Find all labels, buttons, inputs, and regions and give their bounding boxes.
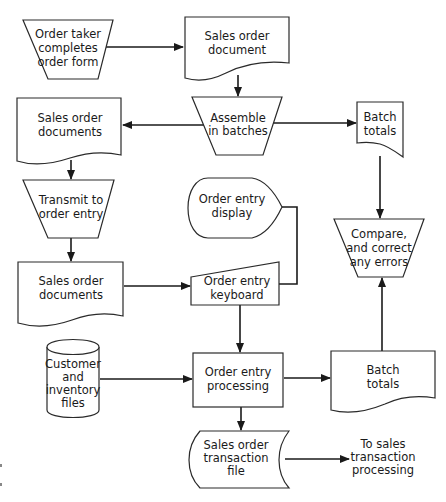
node-order-entry-keyboard: Order entry keyboard [191, 262, 279, 305]
node-label: Order entry [199, 192, 266, 206]
node-label: and correct [346, 241, 412, 255]
node-label: document [208, 43, 267, 57]
node-order-entry-display: Order entry display [188, 178, 282, 238]
node-sales-order-document: Sales order document [185, 17, 289, 80]
node-label: documents [38, 125, 102, 139]
node-label: order form [37, 55, 98, 69]
node-label: display [212, 206, 253, 220]
edge-display-to-keyboard [279, 207, 297, 284]
node-label: transaction [204, 451, 269, 465]
node-label: any errors [350, 255, 409, 269]
node-label: Order entry [205, 365, 272, 379]
node-customer-inventory-files: Customer and inventory files [45, 340, 101, 418]
node-label: inventory [46, 383, 101, 397]
node-transmit-order-entry: Transmit to order entry [23, 180, 114, 238]
node-label: Sales order [38, 111, 103, 125]
node-label: files [61, 396, 85, 410]
node-label: Sales order [39, 274, 104, 288]
node-label: transaction [351, 450, 416, 464]
node-to-sales-transaction: To sales transaction processing [351, 437, 416, 477]
node-label: totals [364, 124, 396, 138]
node-label: Sales order [204, 438, 269, 452]
node-label: documents [39, 288, 103, 302]
node-label: Batch [363, 110, 396, 124]
node-label: processing [207, 379, 269, 393]
node-label: To sales [359, 437, 405, 451]
node-sales-order-documents-2: Sales order documents [18, 262, 123, 326]
node-label: Assemble [210, 111, 266, 125]
node-label: processing [352, 463, 414, 477]
node-label: and [62, 370, 84, 384]
node-batch-totals-2: Batch totals [331, 351, 435, 412]
node-label: Order taker [35, 27, 101, 41]
node-label: order entry [39, 207, 104, 221]
node-label: Sales order [205, 29, 270, 43]
node-label: Order entry [204, 274, 271, 288]
node-label: Customer [45, 357, 101, 371]
node-sales-order-transaction-file: Sales order transaction file [189, 431, 289, 488]
node-label: completes [38, 41, 98, 55]
node-assemble-batches: Assemble in batches [192, 97, 282, 155]
node-label: file [227, 464, 245, 478]
node-sales-order-documents-1: Sales order documents [17, 98, 121, 164]
node-batch-totals-1: Batch totals [357, 102, 403, 157]
node-label: Batch [366, 363, 399, 377]
node-compare-correct: Compare, and correct any errors [334, 219, 424, 277]
node-label: Transmit to [38, 193, 104, 207]
node-order-taker: Order taker completes order form [23, 20, 113, 79]
node-label: keyboard [210, 288, 263, 302]
node-order-entry-processing: Order entry processing [193, 353, 283, 407]
node-label: totals [367, 377, 399, 391]
scan-mark [0, 483, 2, 486]
scan-mark [0, 464, 2, 467]
node-label: Compare, [351, 227, 407, 241]
node-label: in batches [208, 124, 268, 138]
flowchart-canvas: Order taker completes order form Sales o… [0, 0, 446, 502]
